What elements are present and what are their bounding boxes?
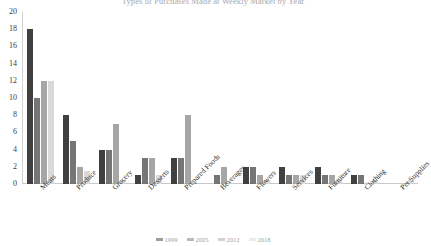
legend-label: 1999: [165, 236, 178, 243]
y-axis-tick-labels: 20181614121086420: [0, 12, 20, 184]
bar-group: [167, 12, 203, 184]
legend-label: 2005: [196, 236, 209, 243]
y-axis-tick: 0: [13, 180, 17, 188]
legend-item[interactable]: 2018: [249, 236, 271, 243]
bar: [63, 115, 69, 184]
bar: [70, 141, 76, 184]
bar: [279, 167, 285, 184]
bar: [41, 81, 47, 184]
bar-group: [238, 12, 274, 184]
y-axis-tick: 20: [9, 8, 17, 16]
bar: [358, 175, 364, 184]
legend-label: 2012: [227, 236, 240, 243]
y-axis-tick: 14: [9, 60, 17, 68]
x-axis-label-cell: Produce: [59, 184, 95, 234]
bar-group: [274, 12, 310, 184]
bar: [351, 175, 357, 184]
x-axis-label-cell: Pet Supplies: [383, 184, 419, 234]
x-axis-label-cell: Meats: [23, 184, 59, 234]
x-axis-label-cell: Services: [275, 184, 311, 234]
bar: [185, 115, 191, 184]
bar-group: [59, 12, 95, 184]
x-axis-label-cell: Prepared Foods: [167, 184, 203, 234]
bar-group: [310, 12, 346, 184]
bar-group: [382, 12, 418, 184]
bar: [322, 175, 328, 184]
legend-swatch: [187, 238, 194, 241]
bar: [178, 158, 184, 184]
legend-item[interactable]: 2005: [187, 236, 209, 243]
bar-group: [346, 12, 382, 184]
y-axis-tick: 18: [9, 25, 17, 33]
bar: [34, 98, 40, 184]
y-axis-tick: 16: [9, 42, 17, 50]
bar: [106, 150, 112, 184]
y-axis-tick: 4: [13, 146, 17, 154]
bar: [135, 175, 141, 184]
x-axis-label-cell: Clothing: [347, 184, 383, 234]
chart-legend: 1999200520122018: [0, 236, 426, 243]
bar: [48, 81, 54, 184]
bar: [315, 167, 321, 184]
x-axis-label-cell: Desserts: [131, 184, 167, 234]
y-axis-tick: 10: [9, 94, 17, 102]
y-axis-tick: 12: [9, 77, 17, 85]
bar: [113, 124, 119, 184]
x-axis-label-cell: Furniture: [311, 184, 347, 234]
bar: [250, 167, 256, 184]
y-axis-tick: 8: [13, 111, 17, 119]
y-axis-tick: 6: [13, 128, 17, 136]
legend-swatch: [218, 238, 225, 241]
bar-group: [23, 12, 59, 184]
legend-swatch: [249, 238, 256, 241]
bar: [142, 158, 148, 184]
x-axis-label-cell: Grocery: [95, 184, 131, 234]
x-axis-label-cell: Flowers: [239, 184, 275, 234]
legend-swatch: [156, 238, 163, 241]
legend-label: 2018: [258, 236, 271, 243]
y-axis-tick: 2: [13, 163, 17, 171]
legend-item[interactable]: 2012: [218, 236, 240, 243]
legend-item[interactable]: 1999: [156, 236, 178, 243]
chart-title: Types of Purchases Made at Weekly Market…: [0, 0, 426, 6]
bar-group: [95, 12, 131, 184]
bar-group: [131, 12, 167, 184]
bar: [99, 150, 105, 184]
bar: [171, 158, 177, 184]
x-axis-label-cell: Beverages: [203, 184, 239, 234]
bar: [27, 29, 33, 184]
x-axis-category-labels: MeatsProduceGroceryDessertsPrepared Food…: [23, 184, 419, 234]
